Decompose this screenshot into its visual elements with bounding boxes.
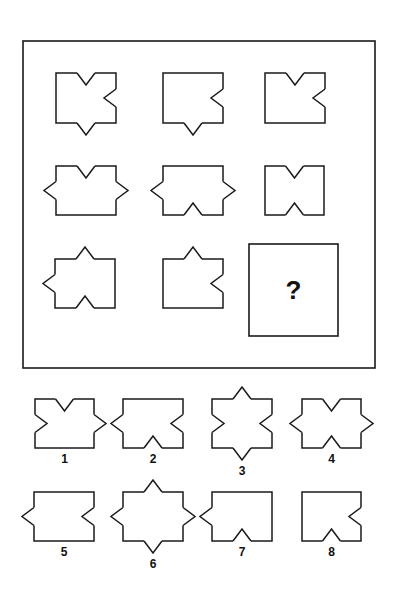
rectangle-shape <box>163 259 223 308</box>
rectangle-shape <box>212 399 272 448</box>
rectangle-shape <box>123 399 183 448</box>
option-3[interactable] <box>212 387 272 460</box>
triangle-right-out-icon <box>94 415 106 433</box>
matrix-cell-r1c2 <box>163 73 223 135</box>
answer-options <box>22 387 373 553</box>
rectangle-shape <box>302 492 361 541</box>
rectangle-shape <box>55 259 115 308</box>
option-label: 7 <box>239 545 246 559</box>
option-label: 8 <box>328 545 335 559</box>
matrix-cell-r2c1 <box>44 166 128 215</box>
triangle-left-out-icon <box>290 415 302 433</box>
rectangle-shape <box>34 492 94 541</box>
triangle-right-out-icon <box>223 182 235 200</box>
puzzle-canvas <box>0 0 396 594</box>
option-label: 3 <box>239 464 246 478</box>
rectangle-shape <box>163 73 223 123</box>
option-2[interactable] <box>111 399 183 448</box>
option-label: 2 <box>150 452 157 466</box>
matrix-cell-r3c2 <box>163 247 223 308</box>
triangle-right-out-icon <box>116 182 128 200</box>
option-5[interactable] <box>22 492 94 541</box>
triangle-bottom-out-icon <box>144 541 162 553</box>
triangle-top-out-icon <box>76 247 94 259</box>
option-7[interactable] <box>200 492 272 541</box>
rectangle-shape <box>35 399 94 448</box>
option-4[interactable] <box>290 399 373 448</box>
triangle-left-out-icon <box>111 415 123 433</box>
triangle-bottom-out-icon <box>184 123 202 135</box>
triangle-top-out-icon <box>144 480 162 492</box>
rectangle-shape <box>265 73 325 123</box>
rectangle-shape <box>212 492 272 541</box>
option-6[interactable] <box>111 480 195 553</box>
triangle-top-out-icon <box>184 247 202 259</box>
triangle-bottom-out-icon <box>233 448 251 460</box>
option-label: 4 <box>328 452 335 466</box>
option-label: 5 <box>61 545 68 559</box>
matrix-cell-r3c1 <box>43 247 115 308</box>
matrix-cell-r1c3 <box>265 73 325 123</box>
rectangle-shape <box>163 166 223 215</box>
triangle-bottom-out-icon <box>77 123 95 135</box>
triangle-left-out-icon <box>200 508 212 526</box>
triangle-left-out-icon <box>151 182 163 200</box>
rectangle-shape <box>302 399 361 448</box>
option-8[interactable] <box>302 492 361 541</box>
triangle-left-out-icon <box>43 275 55 293</box>
triangle-left-out-icon <box>22 508 34 526</box>
question-mark: ? <box>286 275 302 306</box>
option-label: 6 <box>150 557 157 571</box>
triangle-top-out-icon <box>233 387 251 399</box>
rectangle-shape <box>56 73 116 123</box>
option-label: 1 <box>61 452 68 466</box>
triangle-left-out-icon <box>111 508 123 526</box>
triangle-right-out-icon <box>361 415 373 433</box>
triangle-left-out-icon <box>44 182 56 200</box>
rectangle-shape <box>265 166 324 215</box>
option-1[interactable] <box>35 399 106 448</box>
matrix-cell-r2c2 <box>151 166 235 215</box>
triangle-right-out-icon <box>183 508 195 526</box>
rectangle-shape <box>123 492 183 541</box>
matrix-cell-r1c1 <box>56 73 116 135</box>
rectangle-shape <box>56 166 116 215</box>
matrix-cell-r2c3 <box>265 166 324 215</box>
